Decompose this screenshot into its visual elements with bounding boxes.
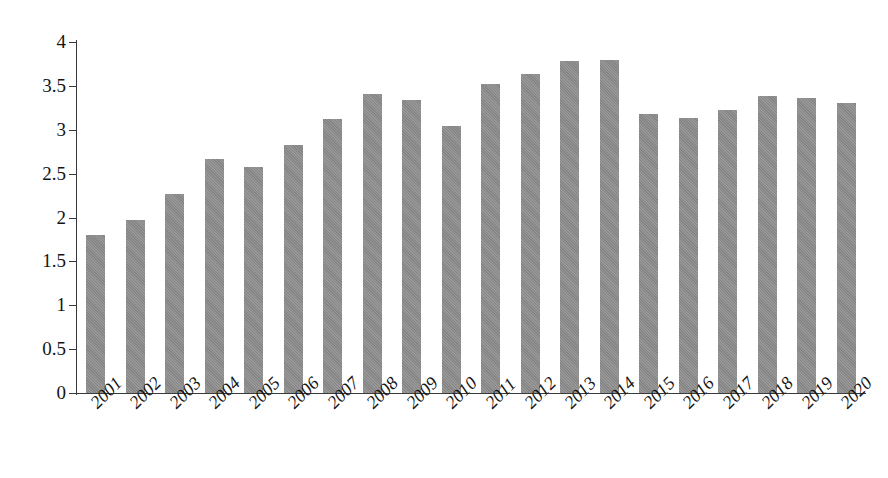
bar	[639, 114, 658, 393]
y-axis-tick-label: 3.5	[22, 76, 66, 95]
y-axis-tick-label: 2	[22, 208, 66, 227]
bar	[165, 194, 184, 393]
bar	[442, 126, 461, 393]
bar	[758, 96, 777, 393]
bar	[205, 159, 224, 393]
bar	[718, 110, 737, 393]
plot-area	[76, 42, 866, 393]
x-axis-labels: 2001200220032004200520062007200820092010…	[0, 399, 888, 478]
bar-chart: 00.511.522.533.54 2001200220032004200520…	[0, 0, 888, 478]
bar	[126, 220, 145, 393]
bar	[679, 118, 698, 393]
bar	[86, 235, 105, 393]
bar	[402, 100, 421, 393]
bar	[600, 60, 619, 393]
bar	[284, 145, 303, 393]
bar	[363, 94, 382, 393]
bar	[244, 167, 263, 393]
y-axis-tick-label: 1.5	[22, 251, 66, 270]
bar	[481, 84, 500, 393]
y-axis-tick-mark	[69, 393, 77, 394]
bar	[323, 119, 342, 393]
y-axis-tick-label: 3	[22, 120, 66, 139]
y-axis-tick-label: 2.5	[22, 164, 66, 183]
bar	[560, 61, 579, 393]
bar	[797, 98, 816, 393]
bar	[521, 74, 540, 393]
bar	[837, 103, 856, 393]
y-axis-tick-label: 4	[22, 32, 66, 51]
y-axis-tick-label: 1	[22, 295, 66, 314]
y-axis-tick-label: 0.5	[22, 339, 66, 358]
